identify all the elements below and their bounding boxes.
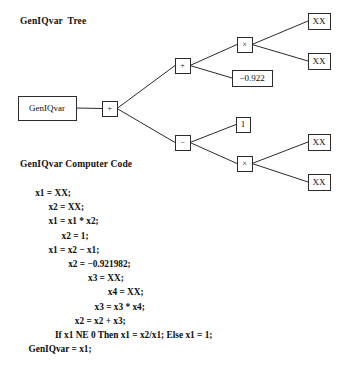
node-label-op_mul_1: × <box>242 40 246 49</box>
node-label-leaf_xx_3: XX <box>313 137 326 147</box>
node-label-op_mul_2: × <box>242 159 246 168</box>
tree-node-op_plus_2[interactable]: + <box>176 59 191 74</box>
tree-edge-op_plus_2-to-op_mul_1 <box>190 45 237 66</box>
code-line: x1 = XX; <box>0 186 346 200</box>
code-line: x2 = x2 + x3; <box>0 314 346 328</box>
tree-edge-op_plus_1-to-op_minus <box>117 109 175 143</box>
node-label-op_minus: − <box>180 138 184 147</box>
tree-node-op_plus_1[interactable]: + <box>103 102 118 117</box>
tree-node-op_mul_2[interactable]: × <box>238 157 253 172</box>
node-label-op_plus_1: + <box>107 104 111 113</box>
code-line: GenIQvar = x1; <box>0 342 346 356</box>
node-label-leaf_xx_2: XX <box>313 56 326 66</box>
figure-canvas: GenIQvar Tree GenIQvar++×XXXX−0.922−1×XX… <box>0 0 346 382</box>
tree-edge-op_mul_2-to-leaf_xx_3 <box>252 142 308 164</box>
tree-node-const_one[interactable]: 1 <box>237 118 251 133</box>
tree-edge-op_mul_1-to-leaf_xx_1 <box>252 21 308 45</box>
tree-node-leaf_xx_2[interactable]: XX <box>309 54 331 70</box>
code-line: x1 = x2 − x1; <box>0 243 346 257</box>
tree-edge-op_mul_1-to-leaf_xx_2 <box>252 45 308 62</box>
tree-node-op_mul_1[interactable]: × <box>238 38 253 53</box>
code-line: If x1 NE 0 Then x1 = x2/x1; Else x1 = 1; <box>0 328 346 342</box>
tree-edge-op_plus_1-to-op_plus_2 <box>117 66 175 109</box>
node-label-const_a: −0.922 <box>239 73 264 83</box>
node-label-leaf_xx_1: XX <box>313 16 326 26</box>
node-label-const_one: 1 <box>241 119 246 129</box>
code-line: x3 = XX; <box>0 271 346 285</box>
code-line: x4 = XX; <box>0 285 346 299</box>
code-line: x2 = XX; <box>0 200 346 214</box>
computer-code-block: x1 = XX;x2 = XX;x1 = x1 * x2;x2 = 1;x1 =… <box>0 186 346 356</box>
tree-node-const_a[interactable]: −0.922 <box>233 71 273 87</box>
tree-node-root[interactable]: GenIQvar <box>19 97 77 121</box>
tree-node-leaf_xx_1[interactable]: XX <box>309 14 331 30</box>
tree-edge-root-to-op_plus_1 <box>76 108 102 109</box>
code-section-heading: GenIQvar Computer Code <box>20 159 132 169</box>
code-line: x2 = 1; <box>0 229 346 243</box>
code-line: x1 = x1 * x2; <box>0 214 346 228</box>
tree-node-op_minus[interactable]: − <box>176 136 191 151</box>
tree-edge-op_plus_2-to-const_a <box>190 66 232 79</box>
tree-node-leaf_xx_3[interactable]: XX <box>309 135 331 151</box>
node-label-op_plus_2: + <box>180 61 184 70</box>
tree-edge-op_mul_2-to-leaf_xx_4 <box>252 164 308 183</box>
code-line: x3 = x3 * x4; <box>0 300 346 314</box>
code-line: x2 = −0.921982; <box>0 257 346 271</box>
tree-edge-op_minus-to-const_one <box>190 125 236 143</box>
tree-edge-op_minus-to-op_mul_2 <box>190 143 237 164</box>
node-label-root: GenIQvar <box>29 103 65 113</box>
